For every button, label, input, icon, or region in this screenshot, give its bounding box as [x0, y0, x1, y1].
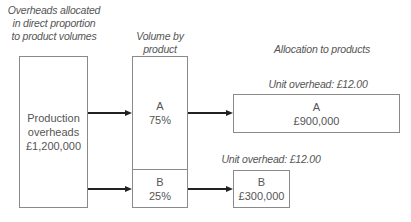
allocation-amount: £900,000	[294, 114, 340, 128]
arrowhead-icon	[226, 186, 233, 192]
arrowhead-icon	[125, 186, 132, 192]
allocation-a-box: A £900,000	[233, 94, 400, 133]
segment-product: A	[156, 99, 163, 113]
production-overheads-box: Production overheads £1,200,000	[19, 56, 88, 208]
heading-volume-by-product: Volume by product	[124, 30, 196, 56]
volume-a-segment: A 75%	[132, 96, 188, 130]
arrow-source-to-b	[88, 188, 125, 190]
allocation-amount: £300,000	[239, 189, 285, 203]
heading-allocation-to-products: Allocation to products	[262, 43, 382, 56]
heading-line: Overheads allocated	[4, 4, 104, 17]
volume-split-divider	[132, 169, 188, 170]
allocation-b-box: B £300,000	[233, 170, 290, 208]
arrowhead-icon	[125, 110, 132, 116]
heading-line: product	[124, 43, 196, 56]
arrow-b-to-allocation	[188, 188, 226, 190]
allocation-product: B	[258, 175, 265, 189]
box-line: £1,200,000	[26, 139, 81, 153]
heading-line: Volume by	[124, 30, 196, 43]
heading-overheads-allocated: Overheads allocated in direct proportion…	[4, 4, 104, 43]
unit-overhead-b-label: Unit overhead: £12.00	[211, 153, 331, 166]
box-line: overheads	[28, 125, 79, 139]
segment-product: B	[156, 175, 163, 189]
unit-overhead-a-label: Unit overhead: £12.00	[258, 78, 378, 91]
box-line: Production	[27, 111, 80, 125]
arrow-source-to-a	[88, 112, 125, 114]
volume-b-segment: B 25%	[132, 171, 188, 207]
arrowhead-icon	[226, 110, 233, 116]
segment-share: 25%	[149, 189, 171, 203]
segment-share: 75%	[149, 113, 171, 127]
heading-line: in direct proportion	[4, 17, 104, 30]
arrow-a-to-allocation	[188, 112, 226, 114]
heading-line: to product volumes	[4, 30, 104, 43]
allocation-product: A	[313, 100, 320, 114]
